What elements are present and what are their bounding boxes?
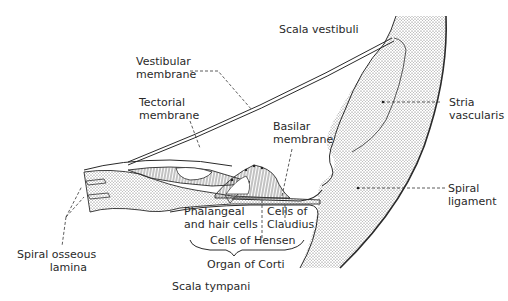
cells-of-claudius-label: Cells of Claudius: [267, 205, 314, 231]
stria-vascularis-label: Stria vascularis: [449, 96, 504, 122]
spiral-ligament-label: Spiral ligament: [448, 182, 497, 208]
leader-basilar: [282, 149, 292, 196]
basilar-membrane-label: Basilar membrane: [273, 120, 333, 146]
spiral-osseous-lamina-label: Spiral osseous lamina: [17, 248, 87, 274]
scala-tympani-label: Scala tympani: [172, 280, 250, 293]
scala-vestibuli-label: Scala vestibuli: [279, 23, 359, 36]
tectorial-membrane-label: Tectorial membrane: [139, 96, 199, 122]
leader-vestibular: [190, 71, 252, 110]
phalangeal-hair-cells-label: Phalangeal and hair cells: [184, 205, 258, 231]
leader-osseous-3: [62, 217, 66, 246]
cells-of-hensen-label: Cells of Hensen: [210, 234, 295, 247]
leader-osseous-2: [66, 197, 84, 217]
vestibular-membrane-label: Vestibular membrane: [136, 55, 196, 81]
organ-of-corti-label: Organ of Corti: [207, 258, 285, 271]
